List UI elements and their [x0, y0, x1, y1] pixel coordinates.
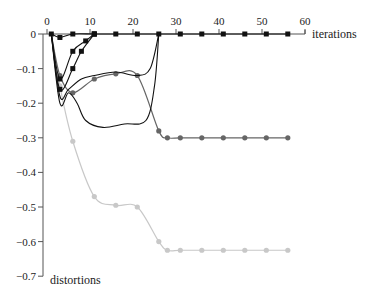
data-point-marker: [242, 32, 247, 37]
data-point-marker: [92, 32, 97, 37]
data-point-marker: [135, 32, 140, 37]
data-point-marker: [242, 248, 247, 253]
data-point-marker: [79, 49, 84, 54]
data-point-marker: [57, 87, 62, 92]
data-point-marker: [92, 76, 97, 81]
data-point-marker: [285, 32, 290, 37]
series-series-darkgray: [51, 34, 290, 140]
data-point-marker: [221, 248, 226, 253]
y-tick-label: 0: [31, 28, 37, 40]
x-tick-label: 20: [128, 15, 140, 27]
data-point-marker: [199, 135, 204, 140]
x-tick-label: 60: [300, 15, 312, 27]
data-point-marker: [264, 32, 269, 37]
data-point-marker: [70, 32, 75, 37]
series-line: [51, 34, 287, 251]
data-point-marker: [264, 135, 269, 140]
data-point-marker: [165, 248, 170, 253]
y-tick-label: −0.2: [16, 97, 36, 109]
data-point-marker: [49, 32, 54, 37]
data-point-marker: [156, 32, 161, 37]
data-point-marker: [57, 35, 62, 40]
data-point-marker: [57, 76, 62, 81]
y-tick-label: −0.3: [16, 132, 36, 144]
data-point-marker: [199, 248, 204, 253]
data-point-marker: [285, 248, 290, 253]
x-tick-label: 30: [171, 15, 183, 27]
y-tick-label: −0.1: [16, 63, 36, 75]
data-point-marker: [70, 139, 75, 144]
y-tick-label: −0.7: [16, 270, 36, 282]
series-line: [51, 34, 94, 90]
series-series-lightgray: [51, 34, 290, 253]
series-group: [49, 32, 291, 253]
x-tick-label: 0: [44, 15, 50, 27]
data-point-marker: [113, 203, 118, 208]
data-point-marker: [285, 135, 290, 140]
x-tick-label: 40: [214, 15, 226, 27]
data-point-marker: [70, 49, 75, 54]
line-chart: 01020304050600−0.1−0.2−0.3−0.4−0.5−0.6−0…: [0, 0, 365, 298]
data-point-marker: [178, 32, 183, 37]
y-tick-label: −0.6: [16, 236, 36, 248]
data-point-marker: [264, 248, 269, 253]
data-point-marker: [113, 32, 118, 37]
data-point-marker: [242, 135, 247, 140]
series-line: [51, 34, 287, 38]
series-series-black-2: [51, 32, 97, 92]
data-point-marker: [221, 135, 226, 140]
data-point-marker: [156, 128, 161, 133]
y-tick-label: −0.5: [16, 201, 36, 213]
data-point-marker: [70, 66, 75, 71]
y-axis-title: distortions: [50, 273, 101, 287]
data-point-marker: [135, 204, 140, 209]
axes: 01020304050600−0.1−0.2−0.3−0.4−0.5−0.6−0…: [16, 15, 311, 282]
x-axis-title: iterations: [312, 27, 357, 41]
data-point-marker: [199, 32, 204, 37]
data-point-marker: [178, 135, 183, 140]
x-tick-label: 50: [257, 15, 269, 27]
x-tick-label: 10: [85, 15, 97, 27]
series-line: [51, 34, 287, 138]
data-point-marker: [221, 32, 226, 37]
data-point-marker: [165, 135, 170, 140]
data-point-marker: [92, 194, 97, 199]
data-point-marker: [178, 248, 183, 253]
data-point-marker: [156, 239, 161, 244]
y-tick-label: −0.4: [16, 166, 36, 178]
